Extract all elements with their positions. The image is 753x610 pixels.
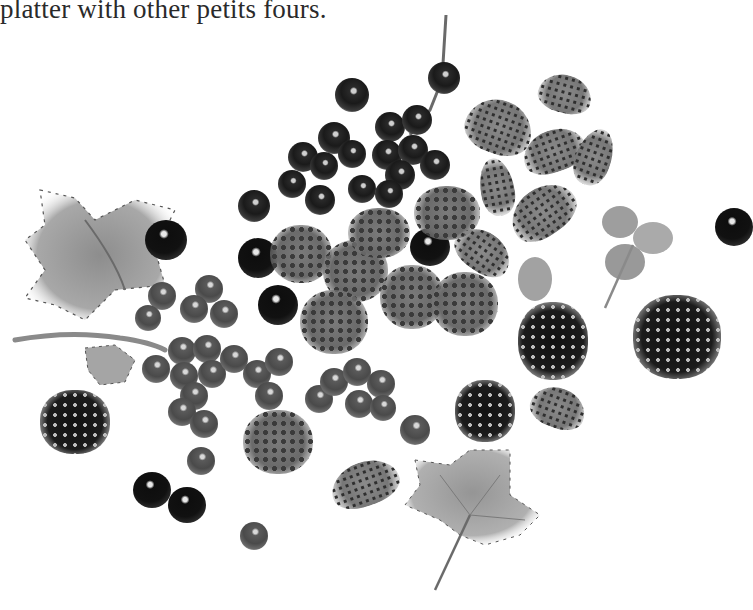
raspberry (432, 272, 498, 336)
redcurrant (190, 410, 218, 438)
blackcurrant (305, 185, 335, 215)
wild-strawberry (475, 155, 519, 218)
blackcurrant (375, 180, 403, 208)
redcurrant (142, 355, 170, 383)
blackcurrant (420, 150, 450, 180)
blackcurrant (428, 62, 460, 94)
blackberry (455, 380, 515, 442)
currant-leaf-small (80, 340, 140, 390)
strawberry-leaf-small (515, 255, 555, 305)
blackcurrant (375, 112, 405, 142)
wild-strawberry (534, 69, 596, 120)
blackberry (633, 295, 721, 379)
redcurrant (210, 300, 238, 328)
blackcurrant (238, 190, 270, 222)
blackcurrant-large (133, 472, 171, 508)
wild-strawberry (325, 451, 406, 516)
redcurrant (345, 390, 373, 418)
raspberry (300, 290, 368, 354)
redcurrant (193, 335, 221, 363)
blackcurrant-large (715, 208, 753, 246)
blackcurrant (402, 105, 432, 135)
strawberry-leaf (595, 200, 675, 310)
raspberry (243, 410, 313, 474)
redcurrant (168, 337, 196, 365)
blackcurrant-large (258, 285, 298, 325)
redcurrant (180, 295, 208, 323)
blackcurrant-large (145, 220, 187, 260)
blackcurrant (335, 78, 369, 112)
blackberry (40, 390, 110, 454)
blackcurrant (278, 170, 306, 198)
wild-strawberry (525, 380, 591, 437)
redcurrant (187, 447, 215, 475)
redcurrant (400, 415, 430, 445)
redcurrant (265, 348, 293, 376)
raspberry (348, 208, 410, 258)
blackcurrant (310, 152, 338, 180)
redcurrant (135, 305, 161, 331)
currant-leaf-bottom (400, 445, 550, 595)
redcurrant (240, 522, 268, 550)
blackcurrant-large (168, 487, 206, 523)
redcurrant (367, 370, 395, 398)
redcurrant (370, 395, 396, 421)
blackcurrant (348, 175, 376, 203)
blackberry (518, 302, 588, 380)
blackcurrant (338, 140, 366, 168)
redcurrant (255, 382, 283, 410)
